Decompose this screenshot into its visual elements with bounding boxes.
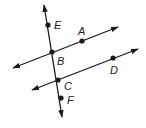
point-b (49, 49, 54, 54)
point-a (79, 38, 84, 43)
line-BA (13, 27, 118, 68)
label-b: B (57, 55, 64, 67)
line-CD (32, 49, 138, 90)
labels-layer: EABDCF (54, 19, 118, 106)
label-e: E (54, 19, 62, 31)
point-c (55, 77, 60, 82)
label-c: C (64, 80, 72, 92)
point-e (45, 22, 50, 27)
diagram-canvas: EABDCF (0, 0, 146, 128)
geometry-diagram: EABDCF (0, 0, 146, 128)
label-d: D (110, 64, 118, 76)
lines-layer (13, 5, 138, 117)
point-f (58, 95, 63, 100)
label-f: F (67, 94, 75, 106)
point-d (110, 55, 115, 60)
label-a: A (77, 25, 85, 37)
